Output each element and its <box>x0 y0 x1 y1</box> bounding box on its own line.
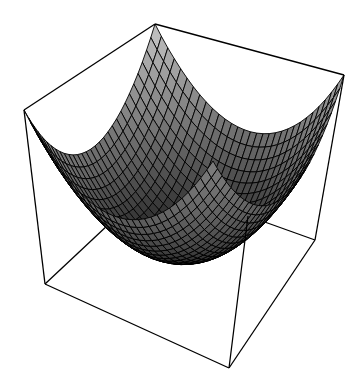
paraboloid-surface-mesh <box>24 24 344 265</box>
box-edge-bottom-front-right <box>229 240 315 368</box>
box-edge-bottom-front-left <box>45 284 229 368</box>
box-edge-top-right <box>155 24 344 75</box>
surface-plot <box>0 0 363 392</box>
